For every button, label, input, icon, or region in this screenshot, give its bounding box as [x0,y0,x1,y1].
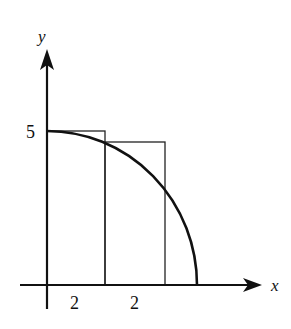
curve [47,131,197,285]
x-axis-label: x [270,276,279,295]
interval-label-2: 2 [130,293,139,313]
y-tick-label: 5 [26,122,35,142]
rectangle-1 [47,131,105,285]
rectangle-2 [105,142,165,285]
interval-label-1: 2 [70,293,79,313]
y-axis-label: y [36,27,46,46]
diagram-canvas: y x 5 2 2 [0,0,291,329]
